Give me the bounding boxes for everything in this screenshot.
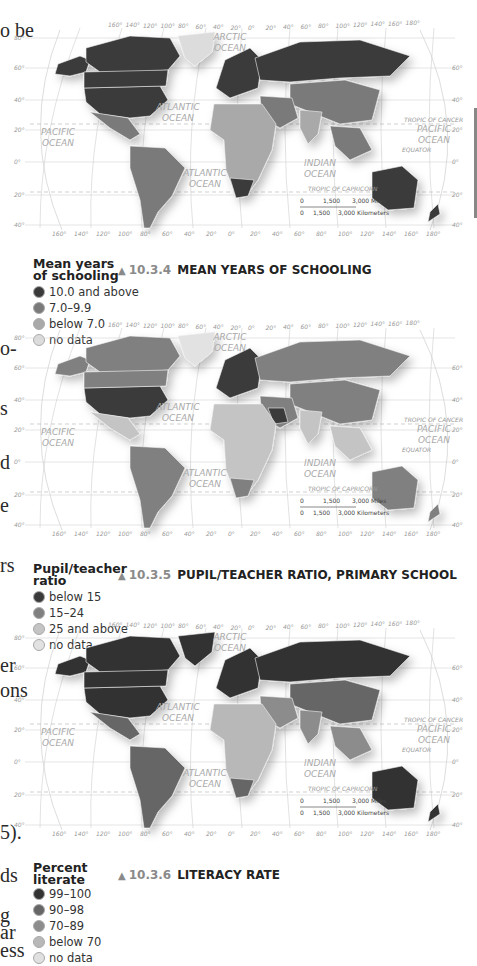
svg-text:180°: 180°: [426, 530, 440, 537]
svg-text:OCEAN: OCEAN: [304, 769, 336, 779]
svg-text:160°: 160°: [388, 20, 402, 27]
svg-text:40°: 40°: [272, 830, 283, 837]
svg-text:80°: 80°: [318, 322, 329, 329]
svg-text:100°: 100°: [118, 830, 132, 837]
svg-text:OCEAN: OCEAN: [418, 435, 450, 445]
svg-text:20°: 20°: [14, 491, 25, 498]
svg-text:120°: 120°: [353, 321, 367, 328]
legend-label: 99–100: [49, 887, 91, 901]
svg-text:80°: 80°: [178, 322, 189, 329]
svg-text:OCEAN: OCEAN: [214, 43, 246, 53]
svg-text:40°: 40°: [272, 530, 283, 537]
svg-text:20°: 20°: [250, 830, 261, 837]
svg-text:60°: 60°: [301, 23, 312, 30]
svg-text:140°: 140°: [74, 530, 88, 537]
svg-text:PACIFIC: PACIFIC: [41, 727, 76, 737]
svg-text:80°: 80°: [14, 334, 25, 341]
svg-text:40°: 40°: [184, 830, 195, 837]
svg-text:60°: 60°: [196, 623, 207, 630]
svg-text:120°: 120°: [96, 830, 110, 837]
svg-text:1,500: 1,500: [313, 209, 330, 216]
map-pupil-teacher-ratio: 80°60°60°40°40°20°20°0°0°20°20°40°40°160…: [0, 290, 477, 590]
svg-text:0: 0: [300, 197, 304, 204]
svg-text:40°: 40°: [14, 221, 25, 228]
svg-text:160°: 160°: [108, 321, 122, 328]
svg-text:40°: 40°: [283, 323, 294, 330]
svg-text:160°: 160°: [52, 230, 66, 237]
svg-text:100°: 100°: [118, 530, 132, 537]
svg-text:3,000 Kilometers: 3,000 Kilometers: [338, 509, 389, 516]
svg-text:140°: 140°: [371, 320, 385, 327]
svg-text:INDIAN: INDIAN: [304, 458, 336, 468]
svg-text:20°: 20°: [250, 530, 261, 537]
svg-text:40°: 40°: [14, 821, 25, 828]
world-map-3: 80°60°60°40°40°20°20°0°0°20°20°40°40°160…: [0, 590, 477, 860]
svg-text:80°: 80°: [316, 230, 327, 237]
svg-text:PACIFIC: PACIFIC: [417, 124, 452, 134]
svg-text:40°: 40°: [452, 521, 463, 528]
svg-text:60°: 60°: [14, 364, 25, 371]
svg-text:OCEAN: OCEAN: [162, 113, 194, 123]
legend-label: 90–98: [49, 903, 84, 917]
svg-text:120°: 120°: [360, 530, 374, 537]
svg-text:OCEAN: OCEAN: [162, 413, 194, 423]
svg-text:OCEAN: OCEAN: [304, 169, 336, 179]
svg-text:40°: 40°: [213, 623, 224, 630]
svg-text:ATLANTIC: ATLANTIC: [155, 402, 200, 412]
world-map-2: 80°60°60°40°40°20°20°0°0°20°20°40°40°160…: [0, 290, 477, 560]
legend-item: no data: [33, 950, 101, 966]
svg-text:1,500: 1,500: [313, 809, 330, 816]
svg-text:ATLANTIC: ATLANTIC: [182, 468, 227, 478]
svg-text:120°: 120°: [143, 622, 157, 629]
svg-text:80°: 80°: [318, 622, 329, 629]
legend-item: 99–100: [33, 886, 101, 902]
svg-text:140°: 140°: [74, 830, 88, 837]
svg-text:80°: 80°: [316, 530, 327, 537]
svg-text:120°: 120°: [353, 621, 367, 628]
svg-text:140°: 140°: [382, 230, 396, 237]
svg-text:TROPIC OF CAPRICORN: TROPIC OF CAPRICORN: [308, 785, 378, 792]
triangle-icon: ▲: [118, 570, 126, 581]
svg-text:INDIAN: INDIAN: [304, 758, 336, 768]
svg-text:160°: 160°: [388, 620, 402, 627]
svg-text:OCEAN: OCEAN: [189, 479, 221, 489]
svg-text:40°: 40°: [283, 23, 294, 30]
svg-text:100°: 100°: [336, 22, 350, 29]
svg-text:180°: 180°: [426, 230, 440, 237]
svg-text:100°: 100°: [336, 322, 350, 329]
svg-text:40°: 40°: [213, 323, 224, 330]
svg-text:100°: 100°: [161, 22, 175, 29]
svg-text:40°: 40°: [283, 623, 294, 630]
svg-text:PACIFIC: PACIFIC: [41, 127, 76, 137]
svg-text:0°: 0°: [14, 158, 21, 165]
svg-text:80°: 80°: [316, 830, 327, 837]
svg-text:120°: 120°: [360, 230, 374, 237]
svg-text:100°: 100°: [338, 230, 352, 237]
svg-text:120°: 120°: [96, 530, 110, 537]
svg-text:3,000 Miles: 3,000 Miles: [352, 797, 386, 804]
svg-text:20°: 20°: [452, 426, 463, 433]
legend-label: 70–89: [49, 919, 84, 933]
svg-text:ATLANTIC: ATLANTIC: [182, 768, 227, 778]
svg-text:100°: 100°: [338, 530, 352, 537]
svg-text:40°: 40°: [14, 521, 25, 528]
figure-caption-10-3-4: ▲10.3.4MEAN YEARS OF SCHOOLING: [118, 263, 372, 277]
svg-text:0°: 0°: [452, 458, 459, 465]
legend-literacy: Percent literate 99–10090–9870–89below 7…: [33, 862, 101, 966]
svg-text:60°: 60°: [196, 23, 207, 30]
svg-text:EQUATOR: EQUATOR: [402, 746, 431, 753]
svg-text:80°: 80°: [140, 230, 151, 237]
legend-label: no data: [49, 951, 93, 965]
world-map-1: 80°60°60°40°40°20°20°0°0°20°20°40°40°160…: [0, 0, 477, 240]
svg-text:20°: 20°: [452, 126, 463, 133]
svg-text:20°: 20°: [266, 624, 277, 631]
svg-text:40°: 40°: [184, 530, 195, 537]
svg-text:20°: 20°: [206, 830, 217, 837]
svg-text:140°: 140°: [382, 530, 396, 537]
svg-text:PACIFIC: PACIFIC: [41, 427, 76, 437]
map-mean-years-schooling: 80°60°60°40°40°20°20°0°0°20°20°40°40°160…: [0, 0, 477, 300]
svg-text:INDIAN: INDIAN: [304, 158, 336, 168]
svg-text:100°: 100°: [161, 622, 175, 629]
svg-text:0: 0: [300, 209, 304, 216]
svg-text:60°: 60°: [14, 664, 25, 671]
